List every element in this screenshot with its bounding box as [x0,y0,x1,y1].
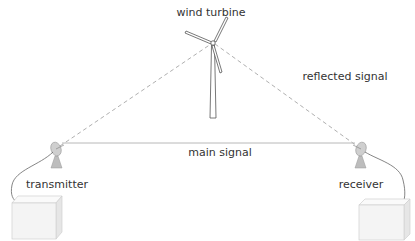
reflected-path-incoming [60,44,211,146]
wind-turbine-icon [185,17,228,118]
wind-turbine-label: wind turbine [176,7,245,18]
diagram-canvas [0,0,415,241]
reflected-signal-label: reflected signal [303,71,388,82]
transmitter-box-icon [12,196,62,239]
main-signal-label: main signal [188,147,252,158]
reflected-path-outgoing [215,44,357,146]
transmitter-label: transmitter [26,179,88,190]
receiver-box-icon [359,199,410,240]
receiver-antenna-icon [353,141,368,168]
receiver-label: receiver [339,179,384,190]
